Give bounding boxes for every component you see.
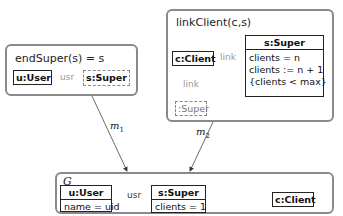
edge-label-usr: usr	[59, 72, 75, 82]
node-user: u:User	[13, 70, 52, 85]
morphism-m2-label: m2	[196, 126, 210, 140]
morphism-m1-label: m1	[110, 120, 124, 134]
node-client: c:Client	[172, 51, 214, 66]
edge-label-link: link	[219, 52, 237, 62]
rule-endsuper-title: endSuper(s) = s	[15, 52, 104, 65]
rule-linkclient-title: linkClient(c,s)	[176, 16, 251, 29]
graph-node-user: u:User name = uid	[60, 185, 112, 212]
graph-node-client: c:Client	[272, 192, 314, 207]
nac-edge-label-link: link	[182, 79, 200, 89]
graph-node-super: s:Super clients = 1	[151, 185, 206, 213]
graph-edge-label-usr: usr	[126, 190, 142, 200]
node-super-attrs: s:Super clients = n clients := n + 1 {cl…	[245, 35, 324, 97]
nac-node-super: :Super	[175, 101, 207, 116]
node-super-created: s:Super	[83, 70, 130, 86]
